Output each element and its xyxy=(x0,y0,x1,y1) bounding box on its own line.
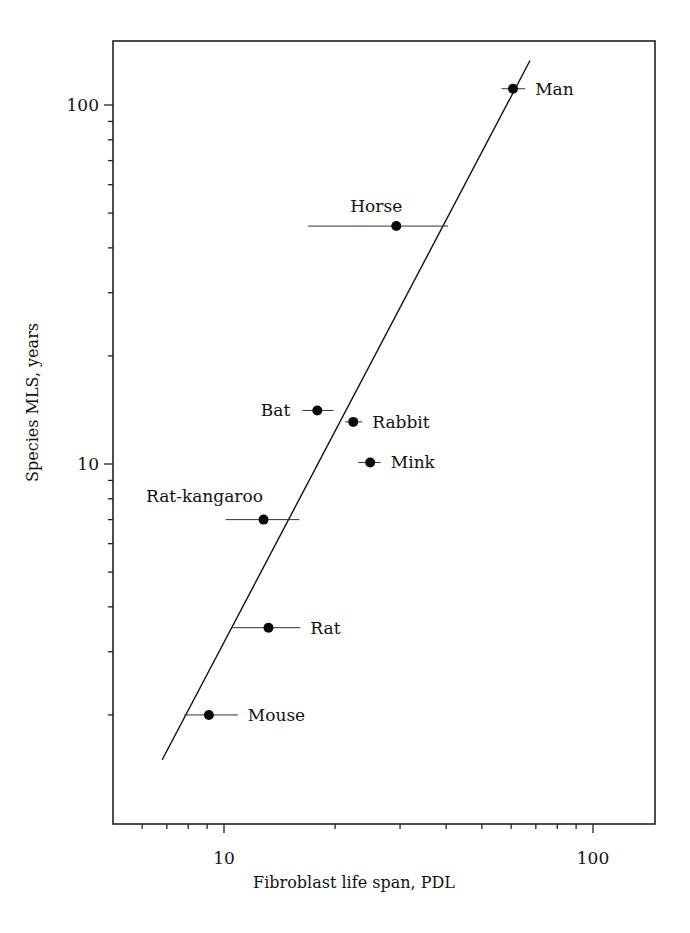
point-label: Horse xyxy=(350,196,402,216)
regression-line xyxy=(162,61,530,760)
data-point-mouse: Mouse xyxy=(184,705,305,725)
data-point-bat: Bat xyxy=(261,400,334,420)
x-tick-label: 10 xyxy=(213,848,235,868)
plot-frame xyxy=(113,41,655,824)
point-label: Rat-kangaroo xyxy=(146,486,263,506)
scatter-chart: 10100 10100 ManHorseBatRabbitMinkRat-kan… xyxy=(0,0,690,933)
point-marker xyxy=(259,515,269,525)
point-marker xyxy=(365,457,375,467)
data-point-man: Man xyxy=(502,79,574,99)
x-axis-label: Fibroblast life span, PDL xyxy=(253,873,455,892)
data-point-rat-kangaroo: Rat-kangaroo xyxy=(146,486,299,525)
data-points: ManHorseBatRabbitMinkRat-kangarooRatMous… xyxy=(146,79,574,725)
x-axis-ticks: 10100 xyxy=(142,824,609,868)
data-point-rat: Rat xyxy=(232,618,341,638)
fit-line xyxy=(162,61,530,760)
y-tick-label: 100 xyxy=(67,95,99,115)
point-marker xyxy=(312,405,322,415)
y-tick-label: 10 xyxy=(77,454,99,474)
point-marker xyxy=(263,623,273,633)
point-label: Rabbit xyxy=(372,412,430,432)
point-marker xyxy=(391,221,401,231)
x-tick-label: 100 xyxy=(577,848,609,868)
y-axis-ticks: 10100 xyxy=(67,95,113,715)
point-label: Rat xyxy=(310,618,340,638)
point-label: Mink xyxy=(391,452,436,472)
point-marker xyxy=(508,84,518,94)
point-label: Man xyxy=(535,79,574,99)
data-point-mink: Mink xyxy=(358,452,435,472)
point-label: Bat xyxy=(261,400,291,420)
point-marker xyxy=(348,417,358,427)
data-point-rabbit: Rabbit xyxy=(345,412,430,432)
point-label: Mouse xyxy=(248,705,305,725)
y-axis-label: Species MLS, years xyxy=(23,323,42,482)
point-marker xyxy=(204,710,214,720)
data-point-horse: Horse xyxy=(308,196,448,231)
